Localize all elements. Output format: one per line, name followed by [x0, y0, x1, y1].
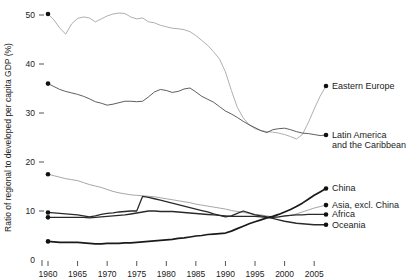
- line-chart-plot: 0102030405019601965197019751980198519901…: [0, 0, 409, 278]
- series-start-marker: [46, 172, 51, 177]
- y-axis: 01020304050: [26, 10, 44, 266]
- x-tick-label: 1990: [216, 269, 235, 278]
- series-line: [48, 211, 326, 225]
- y-tick-label: 40: [26, 59, 36, 69]
- series-line: [48, 196, 326, 217]
- x-axis: 1960196519701975198019851990199520002005: [39, 261, 324, 278]
- series-end-marker: [324, 186, 329, 191]
- series-end-marker: [324, 84, 329, 89]
- series-line: [48, 84, 326, 136]
- y-tick-label: 0: [30, 255, 35, 265]
- series-end-marker: [324, 133, 329, 138]
- x-tick-label: 1985: [186, 269, 205, 278]
- x-tick-label: 2005: [305, 269, 324, 278]
- series-end-marker: [324, 222, 329, 227]
- y-tick-label: 10: [26, 206, 36, 216]
- y-tick-label: 30: [26, 108, 36, 118]
- chart-container: 0102030405019601965197019751980198519901…: [0, 0, 409, 278]
- y-tick-label: 20: [26, 157, 36, 167]
- series-label: China: [332, 183, 356, 193]
- x-tick-label: 1980: [157, 269, 176, 278]
- series-start-marker: [46, 215, 51, 220]
- series-start-marker: [46, 239, 51, 244]
- series-line: [48, 174, 326, 217]
- x-tick-label: 1965: [68, 269, 87, 278]
- series-label: and the Caribbean: [332, 140, 406, 150]
- series-label: Africa: [332, 209, 355, 219]
- y-tick-label: 50: [26, 10, 36, 20]
- series-start-marker: [46, 210, 51, 215]
- x-tick-label: 1960: [39, 269, 58, 278]
- series-end-marker: [324, 212, 329, 217]
- x-tick-label: 1995: [246, 269, 265, 278]
- series-start-marker: [46, 12, 51, 17]
- x-tick-label: 2000: [275, 269, 294, 278]
- x-tick-label: 1970: [98, 269, 117, 278]
- series-label: Latin America: [332, 130, 387, 140]
- series-start-marker: [46, 81, 51, 86]
- series-label: Oceania: [332, 220, 366, 230]
- series-label: Eastern Europe: [332, 81, 395, 91]
- y-axis-title: Ratio of regional to developed per capit…: [3, 43, 13, 232]
- series-end-marker: [324, 203, 329, 208]
- x-tick-label: 1975: [127, 269, 146, 278]
- series-line: [48, 13, 326, 139]
